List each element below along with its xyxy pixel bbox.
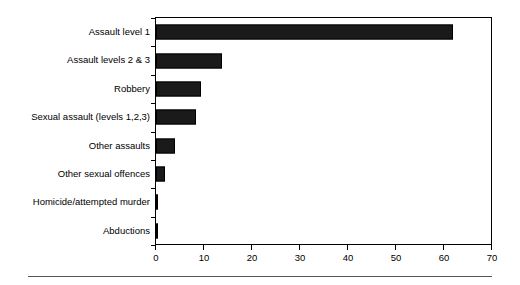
bar-assault-level-1 xyxy=(156,25,453,40)
x-axis-tick xyxy=(395,245,396,250)
x-axis-tick xyxy=(155,245,156,250)
bar-abductions xyxy=(156,223,158,238)
y-axis-tick xyxy=(151,188,155,189)
y-axis-label-2: Robbery xyxy=(0,75,150,103)
y-axis-label-4: Other assaults xyxy=(0,132,150,160)
bar-other-assaults xyxy=(156,138,175,153)
x-axis-tick xyxy=(491,245,492,250)
y-axis-category-labels: Assault level 1 Assault levels 2 & 3 Rob… xyxy=(0,18,150,245)
x-axis-tick-label: 10 xyxy=(189,252,219,263)
y-axis-tick xyxy=(151,132,155,133)
bar-homicide-attempted-murder xyxy=(156,195,158,210)
x-axis-tick xyxy=(347,245,348,250)
y-axis-label-1: Assault levels 2 & 3 xyxy=(0,46,150,74)
x-axis-tick-label: 60 xyxy=(429,252,459,263)
x-axis-tick-label: 0 xyxy=(141,252,171,263)
bar-chart: Assault level 1 Assault levels 2 & 3 Rob… xyxy=(0,0,520,285)
x-axis-tick-label: 20 xyxy=(237,252,267,263)
bar-row xyxy=(156,103,492,131)
y-axis-label-5: Other sexual offences xyxy=(0,160,150,188)
bar-robbery xyxy=(156,81,201,96)
y-axis-tick xyxy=(151,18,155,19)
x-axis-tick xyxy=(251,245,252,250)
x-axis-tick xyxy=(443,245,444,250)
y-axis-label-6: Homicide/attempted murder xyxy=(0,188,150,216)
y-axis-tick xyxy=(151,160,155,161)
bottom-divider xyxy=(28,276,492,277)
y-axis-label-7: Abductions xyxy=(0,217,150,245)
x-axis-tick xyxy=(203,245,204,250)
bar-row xyxy=(156,18,492,46)
bar-row xyxy=(156,46,492,74)
y-axis-tick xyxy=(151,103,155,104)
y-axis-label-3: Sexual assault (levels 1,2,3) xyxy=(0,103,150,131)
bar-row xyxy=(156,160,492,188)
x-axis-tick-label: 40 xyxy=(333,252,363,263)
bar-assault-levels-2-3 xyxy=(156,53,222,68)
bar-row xyxy=(156,75,492,103)
bar-sexual-assault xyxy=(156,110,196,125)
y-axis-label-0: Assault level 1 xyxy=(0,18,150,46)
y-axis-tick xyxy=(151,75,155,76)
y-axis-tick xyxy=(151,217,155,218)
bar-row xyxy=(156,217,492,245)
bar-row xyxy=(156,132,492,160)
bars-layer xyxy=(156,18,492,245)
x-axis-tick-label: 70 xyxy=(477,252,507,263)
x-axis-tick-label: 50 xyxy=(381,252,411,263)
y-axis-tick xyxy=(151,46,155,47)
bar-other-sexual-offences xyxy=(156,167,165,182)
x-axis-tick-label: 30 xyxy=(285,252,315,263)
x-axis-tick xyxy=(299,245,300,250)
bar-row xyxy=(156,188,492,216)
